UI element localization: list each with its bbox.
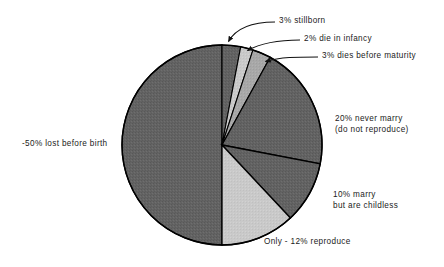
label-dies-before-maturity: 3% dies before maturity [322, 50, 416, 61]
label-childless-line1: 10% marry [333, 189, 376, 200]
label-die-in-infancy: 2% die in infancy [304, 33, 372, 44]
leader-line-die-in-infancy [248, 40, 301, 51]
leader-line-stillborn [229, 22, 276, 42]
pie-slice-lost-before-birth [122, 45, 222, 245]
label-childless-line2: but are childless [333, 200, 398, 211]
pie-chart-figure: 3% stillborn 2% die in infancy 3% dies b… [0, 0, 444, 267]
label-never-marry-line2: (do not reproduce) [335, 124, 409, 135]
label-reproduce: Only - 12% reproduce [264, 236, 351, 247]
label-stillborn: 3% stillborn [279, 15, 326, 26]
label-lost-before-birth: -50% lost before birth [22, 138, 108, 149]
label-never-marry-line1: 20% never marry [335, 113, 403, 124]
